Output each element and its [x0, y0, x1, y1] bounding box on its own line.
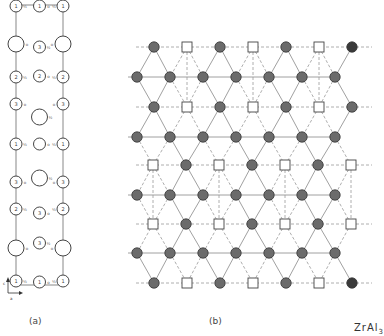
atom-height-label: ½ — [52, 4, 56, 9]
al-atom — [297, 72, 307, 82]
al-atom — [281, 102, 291, 112]
atom-height-label: ½ — [23, 207, 27, 212]
axis-c-label: c — [3, 281, 5, 286]
atom-label: 3 — [38, 44, 41, 50]
atom-label: 3 — [38, 240, 41, 246]
atom-label: 1 — [61, 3, 64, 9]
al-atom — [165, 72, 175, 82]
atom-center — [32, 109, 48, 125]
atom-right — [55, 240, 71, 256]
atom-height-label: o — [47, 74, 50, 79]
atom-height-label: o — [53, 102, 56, 107]
atom-label: 1 — [61, 141, 64, 147]
al-atom — [215, 102, 225, 112]
atom-label: 3 — [14, 179, 17, 185]
atom-label: 1 — [38, 279, 41, 285]
al-atom — [149, 42, 159, 52]
atom-height-label: o — [24, 102, 27, 107]
al-atom — [347, 278, 357, 288]
al-atom — [149, 102, 159, 112]
al-atom — [165, 248, 175, 258]
atom-height-label: o — [47, 142, 50, 147]
al-atom — [165, 190, 175, 200]
open-site-square — [182, 102, 192, 112]
al-atom — [264, 248, 274, 258]
atom-height-label: ½ — [23, 4, 27, 9]
atom-height-label: ½ — [23, 142, 27, 147]
atom-height-label: o — [53, 180, 56, 185]
atom-label: 3 — [38, 210, 41, 216]
al-atom — [347, 42, 357, 52]
atom-label: 1 — [14, 3, 17, 9]
al-atom — [297, 248, 307, 258]
al-atom — [231, 248, 241, 258]
al-atom — [281, 42, 291, 52]
al-atom — [330, 72, 340, 82]
atom-height-label: ½ — [52, 142, 56, 147]
al-atom — [264, 190, 274, 200]
atom-label: 2 — [38, 73, 41, 79]
al-atom — [247, 219, 257, 229]
open-site-square — [182, 42, 192, 52]
al-atom — [149, 278, 159, 288]
al-atom — [281, 278, 291, 288]
atom-label: 2 — [61, 206, 64, 212]
atom-label: 1 — [38, 3, 41, 9]
al-atom — [132, 190, 142, 200]
atom-label: 2 — [14, 74, 17, 80]
atom-right — [55, 36, 71, 52]
al-atom — [198, 248, 208, 258]
atom-left — [8, 36, 24, 52]
atom-center — [32, 170, 48, 186]
panel-b-caption: (b) — [209, 316, 222, 326]
al-atom — [132, 132, 142, 142]
al-atom — [330, 190, 340, 200]
al-atom — [330, 248, 340, 258]
open-site-square — [346, 160, 356, 170]
al-atom — [181, 160, 191, 170]
al-atom — [313, 219, 323, 229]
al-atom — [347, 102, 357, 112]
open-site-square — [314, 102, 324, 112]
atom-label: 3 — [14, 101, 17, 107]
al-atom — [297, 190, 307, 200]
open-site-square — [248, 42, 258, 52]
al-atom — [132, 248, 142, 258]
atom-height-label: ½ — [52, 279, 56, 284]
open-site-square — [346, 219, 356, 229]
al-atom — [264, 72, 274, 82]
atom-height-label: ½ — [52, 75, 56, 80]
atom-label: 1 — [61, 278, 64, 284]
atom-label: 2 — [61, 74, 64, 80]
al-atom — [215, 278, 225, 288]
open-site-square — [280, 160, 290, 170]
compound-formula: ZrAl3 — [354, 322, 384, 336]
atom-label: 3 — [61, 179, 64, 185]
atom-height-label: o — [26, 42, 29, 47]
atom-height-label: ½ — [23, 279, 27, 284]
al-atom — [198, 132, 208, 142]
al-atom — [313, 160, 323, 170]
formula-base: ZrAl — [354, 322, 379, 333]
atom-height-label: ½ — [23, 75, 27, 80]
panel-a-unit-cell: 1½o2½3o1½3o2½o1½1o3½2o½o½3o3½1o1½o2½3o1½… — [3, 0, 71, 301]
atom-height-label: o — [47, 211, 50, 216]
atom-height-label: o — [24, 180, 27, 185]
formula-subscript: 3 — [379, 328, 384, 336]
al-atom — [132, 72, 142, 82]
al-atom — [231, 190, 241, 200]
al-atom — [330, 132, 340, 142]
open-site-square — [214, 219, 224, 229]
al-atom — [181, 219, 191, 229]
open-site-square — [148, 160, 158, 170]
al-atom — [198, 72, 208, 82]
atom-label: 1 — [14, 141, 17, 147]
atom-left — [8, 240, 24, 256]
atom-height-label: o — [26, 246, 29, 251]
open-site-square — [214, 160, 224, 170]
atom-label: 3 — [61, 101, 64, 107]
atom-height-label: o — [51, 246, 54, 251]
al-atom — [231, 132, 241, 142]
al-atom — [231, 72, 241, 82]
